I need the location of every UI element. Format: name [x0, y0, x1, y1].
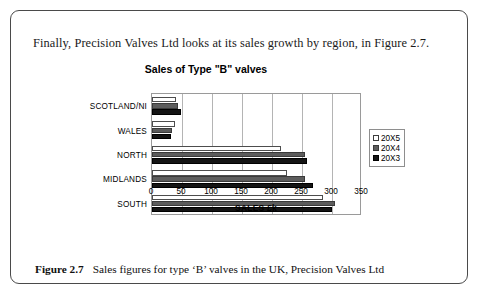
x-tick-label: 50 — [176, 187, 185, 196]
legend-item-20x3: 20X3 — [373, 153, 400, 163]
bar-20x4 — [152, 152, 305, 157]
bar-20x5 — [152, 146, 281, 151]
legend-label: 20X4 — [381, 144, 400, 153]
legend-item-20x4: 20X4 — [373, 143, 400, 153]
figure-caption: Figure 2.7Sales figures for type ‘B’ val… — [35, 263, 455, 275]
legend-label: 20X3 — [381, 154, 400, 163]
x-tick-label: 350 — [354, 187, 368, 196]
bar-20x3 — [152, 109, 181, 114]
figure-container: Finally, Precision Valves Ltd looks at i… — [10, 10, 468, 284]
x-axis-title: SALES £k — [151, 203, 361, 213]
x-tick-label: 0 — [149, 187, 154, 196]
legend-swatch-icon — [373, 155, 379, 161]
legend-label: 20X5 — [381, 134, 400, 143]
caption-text: Sales figures for type ‘B’ valves in the… — [93, 263, 384, 275]
intro-paragraph: Finally, Precision Valves Ltd looks at i… — [33, 36, 453, 51]
x-tick-label: 100 — [204, 187, 218, 196]
chart-category-row: SCOTLAND/NI — [152, 94, 360, 118]
bar-20x5 — [152, 121, 175, 126]
bar-20x5 — [152, 170, 287, 175]
y-axis-label: SCOTLAND/NI — [90, 102, 147, 111]
page-root: Finally, Precision Valves Ltd looks at i… — [0, 0, 480, 296]
legend-swatch-icon — [373, 145, 379, 151]
bar-20x4 — [152, 128, 172, 133]
chart-legend: 20X520X420X3 — [369, 129, 405, 167]
chart-category-row: WALES — [152, 118, 360, 142]
chart-title: Sales of Type "B" valves — [41, 63, 371, 75]
y-axis-label: NORTH — [117, 150, 147, 159]
y-axis-label: WALES — [118, 126, 147, 135]
legend-item-20x5: 20X5 — [373, 133, 400, 143]
caption-label: Figure 2.7 — [35, 263, 84, 275]
x-tick-label: 250 — [294, 187, 308, 196]
bar-chart: Sales of Type "B" valves SCOTLAND/NIWALE… — [41, 63, 451, 243]
legend-swatch-icon — [373, 135, 379, 141]
bar-20x4 — [152, 103, 178, 108]
y-axis-label: SOUTH — [117, 199, 147, 208]
bar-20x4 — [152, 176, 305, 181]
chart-category-row: NORTH — [152, 143, 360, 167]
x-tick-label: 200 — [264, 187, 278, 196]
y-axis-label: MIDLANDS — [103, 175, 147, 184]
bar-20x5 — [152, 97, 176, 102]
x-tick-label: 300 — [324, 187, 338, 196]
bar-20x3 — [152, 158, 307, 163]
plot-area: SCOTLAND/NIWALESNORTHMIDLANDSSOUTH — [151, 93, 361, 215]
x-tick-label: 150 — [234, 187, 248, 196]
bar-20x3 — [152, 134, 171, 139]
